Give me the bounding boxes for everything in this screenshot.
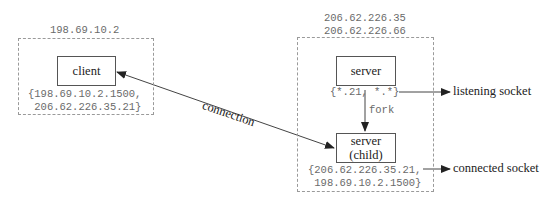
server-label: server	[351, 64, 382, 78]
server-box: server	[336, 56, 396, 86]
fork-label: fork	[369, 104, 394, 117]
client-host-ip: 198.69.10.2	[50, 24, 119, 37]
server-host-ip-1: 206.62.226.35	[324, 12, 406, 25]
client-socket-pair-line1: {198.69.10.2.1500,	[28, 88, 141, 101]
connected-socket-pair-line2: 198.69.10.2.1500}	[308, 177, 421, 190]
child-label-line2: (child)	[349, 148, 382, 162]
connected-socket-label: connected socket	[453, 161, 539, 176]
child-label-line1: server	[351, 134, 382, 148]
client-socket-pair-line2: 206.62.226.35.21}	[28, 101, 141, 114]
child-server-box: server (child)	[336, 133, 396, 163]
client-box: client	[57, 56, 116, 86]
listening-socket-label: listening socket	[453, 84, 531, 99]
client-label: client	[73, 64, 101, 78]
listening-socket-pair: {*.21, *.*}	[330, 86, 399, 99]
connected-socket-pair-line1: {206.62.226.35.21,	[308, 164, 421, 177]
